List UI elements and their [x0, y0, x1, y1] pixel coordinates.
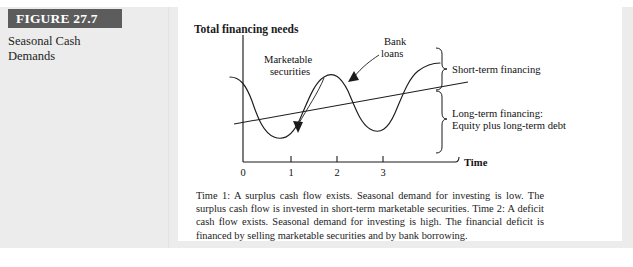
long-term-financing-brace — [436, 91, 447, 153]
long-term-financing-label-line-2: Equity plus long-term debt — [452, 120, 566, 131]
time-axis-hook — [448, 157, 459, 162]
short-term-financing-label: Short-term financing — [452, 64, 541, 75]
marketable-securities-label-line-2: securities — [270, 66, 310, 77]
x-tick-label-2: 2 — [334, 167, 339, 178]
x-axis-label: Time — [464, 157, 488, 168]
marketable-securities-arrowhead — [293, 121, 303, 133]
marketable-securities-label-line-1: Marketable — [264, 54, 313, 65]
bank-loans-leader-line — [354, 55, 379, 77]
x-tick-label-1: 1 — [288, 167, 293, 178]
total-financing-needs-curve — [230, 63, 440, 138]
bank-loans-label-line-1: Bank — [384, 36, 407, 47]
marketable-securities-leader-line — [298, 78, 324, 125]
short-term-financing-brace — [436, 48, 447, 90]
figure-screenshot: FIGURE 27.7 Seasonal Cash Demands Total … — [0, 0, 633, 267]
long-term-financing-line — [234, 82, 468, 124]
figure-title-line-1: Seasonal Cash — [8, 34, 158, 49]
seasonal-cash-demands-chart: 0 1 2 3 Time Marketable securities Bank … — [178, 7, 622, 187]
figure-caption: Time 1: A surplus cash flow exists. Seas… — [196, 189, 544, 242]
bank-loans-label-line-2: loans — [381, 48, 403, 59]
figure-title-line-2: Demands — [8, 49, 158, 64]
figure-number-label: FIGURE 27.7 — [8, 9, 122, 28]
figure-title: Seasonal Cash Demands — [8, 34, 158, 63]
x-tick-label-0: 0 — [240, 167, 245, 178]
long-term-financing-label-line-1: Long-term financing: — [452, 108, 543, 119]
x-tick-label-3: 3 — [380, 167, 385, 178]
column-divider — [168, 7, 169, 248]
chart-and-caption: Total financing needs 0 1 2 3 Time Marke… — [178, 7, 622, 241]
figure-number-badge: FIGURE 27.7 — [8, 9, 122, 28]
